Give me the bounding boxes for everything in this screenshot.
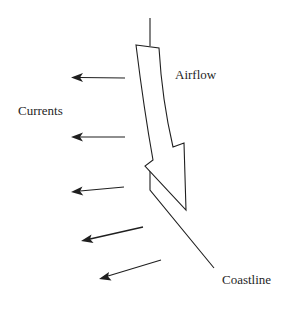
current-arrow-icon: [80, 78, 125, 79]
coastal-airflow-diagram: [0, 0, 288, 309]
airflow-label: Airflow: [175, 68, 216, 81]
current-arrow-icon: [108, 260, 161, 276]
coastline-label: Coastline: [222, 273, 271, 286]
current-arrow-icon: [90, 227, 143, 239]
current-arrow-icon: [80, 187, 124, 191]
currents-label: Currents: [18, 104, 63, 117]
